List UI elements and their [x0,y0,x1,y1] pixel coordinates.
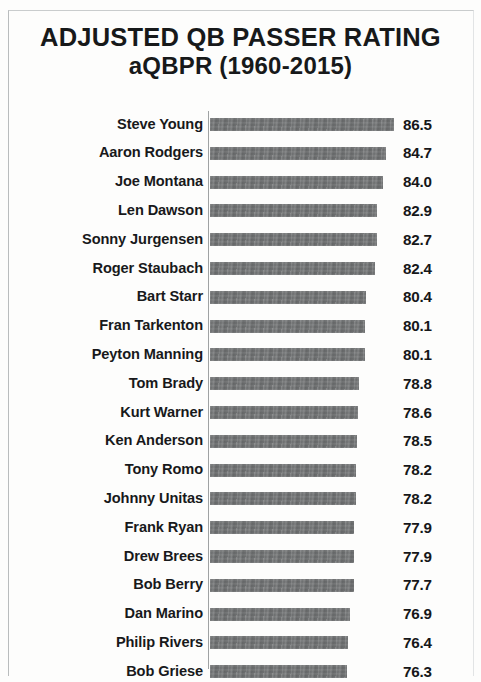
bar-value-label: 78.8 [403,375,432,392]
bar-fill [210,579,354,592]
chart-title-line-1: ADJUSTED QB PASSER RATING [0,22,481,52]
bar-value-label: 77.9 [403,519,432,536]
bar-category-label: Tony Romo [0,461,203,477]
bar-value-label: 84.7 [403,144,432,161]
bar-value-label: 76.4 [403,634,432,651]
bar-fill [210,521,354,534]
bar-value-label: 82.4 [403,260,432,277]
bar-category-label: Fran Tarkenton [0,317,203,333]
bar [210,608,350,621]
bar-row: Philip Rivers76.4 [0,631,481,660]
bar-row: Dan Marino76.9 [0,602,481,631]
bar [210,118,394,131]
bar-fill [210,118,394,131]
bar [210,348,365,361]
bar-value-label: 78.6 [403,404,432,421]
bar-category-label: Roger Staubach [0,260,203,276]
bar-row: Roger Staubach82.4 [0,257,481,286]
bar-row: Tony Romo78.2 [0,458,481,487]
bar-category-label: Joe Montana [0,173,203,189]
bar-category-label: Sonny Jurgensen [0,231,203,247]
bar-fill [210,291,366,304]
bar-fill [210,406,358,419]
bar-fill [210,665,347,678]
bar-category-label: Tom Brady [0,375,203,391]
bar [210,320,365,333]
bar-fill [210,233,377,246]
bar-row: Sonny Jurgensen82.7 [0,228,481,257]
bar-fill [210,320,365,333]
bar-value-label: 80.1 [403,346,432,363]
bar-value-label: 84.0 [403,173,432,190]
bar-value-label: 80.4 [403,288,432,305]
bar [210,435,357,448]
chart-title-line-2: aQBPR (1960-2015) [0,52,481,80]
bar-fill [210,608,350,621]
bar-fill [210,464,356,477]
bar-fill [210,492,356,505]
bar-category-label: Ken Anderson [0,432,203,448]
bar-category-label: Bob Berry [0,576,203,592]
bar-row: Frank Ryan77.9 [0,516,481,545]
bar-category-label: Steve Young [0,116,203,132]
chart-title: ADJUSTED QB PASSER RATING aQBPR (1960-20… [0,22,481,80]
bar-fill [210,435,357,448]
bar-row: Tom Brady78.8 [0,372,481,401]
bar-value-label: 82.7 [403,231,432,248]
bar-fill [210,636,348,649]
bar [210,377,359,390]
bar [210,579,354,592]
bar-category-label: Johnny Unitas [0,490,203,506]
bar [210,521,354,534]
bar [210,262,375,275]
bar [210,406,358,419]
bar [210,233,377,246]
bar-fill [210,262,375,275]
bar-value-label: 76.9 [403,605,432,622]
bar-value-label: 77.9 [403,548,432,565]
bar-value-label: 77.7 [403,576,432,593]
bar-row: Drew Brees77.9 [0,545,481,574]
bar [210,636,348,649]
bar-row: Ken Anderson78.5 [0,429,481,458]
bar-row: Bob Berry77.7 [0,573,481,602]
bar-fill [210,176,383,189]
bar [210,665,347,678]
bar-row: Bart Starr80.4 [0,285,481,314]
bar [210,204,377,217]
bar [210,147,386,160]
bar-category-label: Peyton Manning [0,346,203,362]
bar-fill [210,348,365,361]
bar [210,176,383,189]
bar-row: Steve Young86.5 [0,113,481,142]
bar-fill [210,377,359,390]
bar-row: Joe Montana84.0 [0,170,481,199]
bar-value-label: 76.3 [403,663,432,680]
bar-category-label: Aaron Rodgers [0,144,203,160]
bar-category-label: Frank Ryan [0,519,203,535]
bar-value-label: 82.9 [403,202,432,219]
bar [210,291,366,304]
bar [210,464,356,477]
bar-chart-plot-area: Steve Young86.5Aaron Rodgers84.7Joe Mont… [0,111,481,676]
bar-category-label: Kurt Warner [0,404,203,420]
bar-value-label: 78.2 [403,490,432,507]
bar-row: Peyton Manning80.1 [0,343,481,372]
bar-row: Bob Griese76.3 [0,660,481,682]
bar-category-label: Bob Griese [0,663,203,679]
bar-row: Kurt Warner78.6 [0,401,481,430]
bar-row: Fran Tarkenton80.1 [0,314,481,343]
bar-row: Johnny Unitas78.2 [0,487,481,516]
bar-fill [210,204,377,217]
bar [210,492,356,505]
bar-value-label: 86.5 [403,116,432,133]
bar-category-label: Len Dawson [0,202,203,218]
bar-value-label: 78.5 [403,432,432,449]
bar-fill [210,550,354,563]
bar-fill [210,147,386,160]
bar-row: Aaron Rodgers84.7 [0,141,481,170]
bar-category-label: Drew Brees [0,548,203,564]
bar-value-label: 80.1 [403,317,432,334]
bar-row: Len Dawson82.9 [0,199,481,228]
